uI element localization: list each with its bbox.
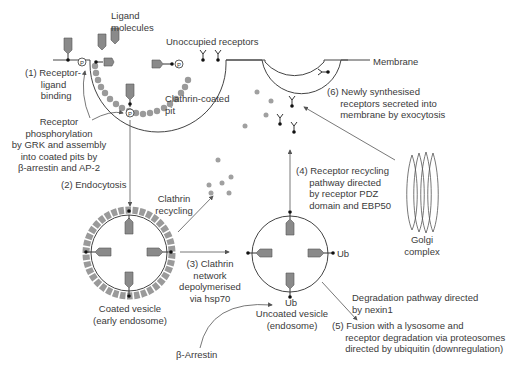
clathrin-recycling-label: Clathrin recycling	[150, 193, 198, 216]
ub-right-label: Ub	[337, 248, 349, 260]
step6-label: (6) Newly synthesised receptors secreted…	[327, 86, 445, 121]
phospho-p-left: P	[80, 60, 84, 66]
phospho-arrow-1	[83, 71, 90, 118]
bound-receptor-top-left	[64, 38, 72, 62]
receptor-phosphorylation-label: Receptor phosphorylation by GRK and asse…	[4, 116, 114, 174]
degradation-label: Degradation pathway directed by nexin1	[352, 292, 478, 315]
golgi-complex	[407, 152, 439, 233]
step1-label: (1) Receptor- ligand binding	[25, 67, 81, 102]
coated-vesicle	[84, 209, 173, 298]
step3-label: (3) Clathrin network depolymerised via h…	[175, 258, 245, 304]
step2-label: (2) Endocytosis	[61, 179, 126, 191]
unoccupied-receptors	[200, 50, 221, 62]
clathrin-coated-pit-label: Clathrin-coated pit	[165, 93, 229, 116]
step5-label: (5) Fusion with a lysosome and receptor …	[332, 320, 505, 355]
endocytosis-diagram: P P P	[0, 0, 507, 371]
uncoated-vesicle-label: Uncoated vesicle (endosome)	[248, 308, 336, 331]
beta-arrestin-label: β-Arrestin	[176, 349, 217, 361]
golgi-label: Golgi complex	[397, 234, 447, 257]
ligand-molecules-label: Ligand molecules	[111, 10, 154, 33]
uncoated-vesicle	[246, 210, 335, 299]
phospho-p-right: P	[177, 62, 181, 68]
phospho-p-bottom: P	[128, 111, 132, 117]
step4-label: (4) Receptor recycling pathway directed …	[296, 165, 391, 211]
recycled-receptors	[277, 69, 330, 134]
ub-bottom-label: Ub	[285, 297, 297, 309]
membrane-exocytosis-pit	[265, 60, 370, 76]
unoccupied-receptors-label: Unoccupied receptors	[166, 36, 258, 48]
membrane-label: Membrane	[373, 56, 418, 68]
coated-vesicle-label: Coated vesicle (early endosome)	[85, 303, 175, 326]
